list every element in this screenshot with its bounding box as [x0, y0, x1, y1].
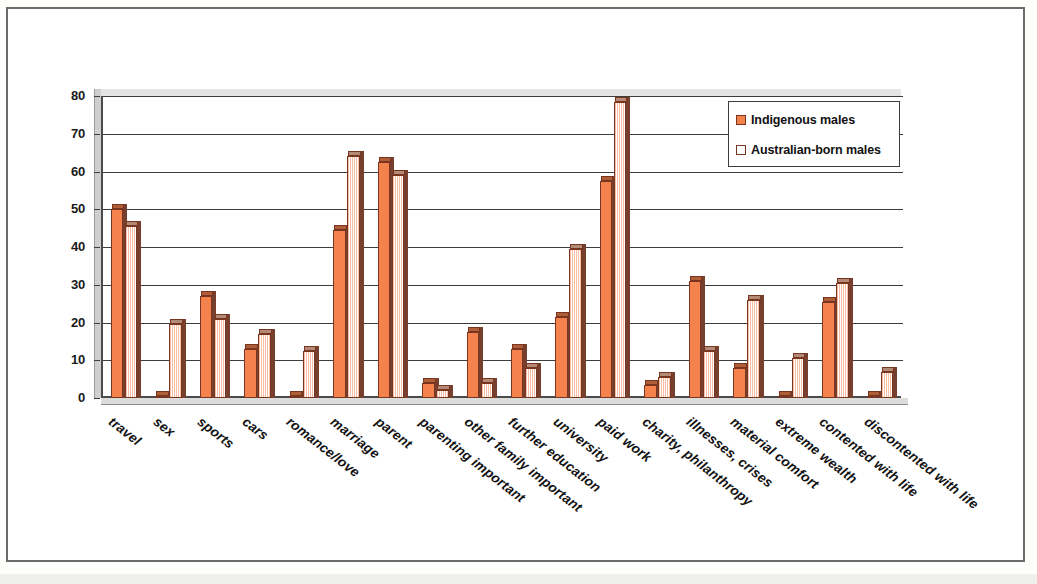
y-axis-tick-mark	[94, 398, 100, 399]
legend-item-australian-born-males: Australian-born males	[736, 143, 881, 157]
bar	[422, 383, 435, 398]
bar	[333, 230, 346, 398]
bar	[733, 368, 746, 398]
y-axis-tick-label: 0	[0, 390, 85, 405]
y-axis-tick-label: 10	[0, 352, 85, 367]
legend-swatch-icon	[736, 145, 746, 155]
y-axis-tick-label: 80	[0, 88, 85, 103]
bar	[111, 209, 124, 398]
x-axis-label: cars	[239, 414, 270, 443]
bar	[644, 385, 657, 398]
y-axis-tick-mark	[94, 247, 100, 248]
chart-back-wall-top	[94, 89, 901, 96]
x-axis-label: sports	[195, 414, 237, 452]
screenshot-page: 01020304050607080 travelsexsportscarsrom…	[0, 0, 1037, 584]
y-axis-tick-label: 20	[0, 315, 85, 330]
bar	[347, 156, 360, 398]
bar	[792, 358, 805, 398]
y-axis-tick-mark	[94, 209, 100, 210]
bar	[555, 317, 568, 398]
legend-item-indigenous-males: Indigenous males	[736, 113, 855, 127]
y-axis-tick-mark	[94, 134, 100, 135]
y-axis-tick-label: 30	[0, 277, 85, 292]
bar	[881, 372, 894, 398]
bar	[481, 383, 494, 398]
bar	[614, 102, 627, 398]
x-axis-label: travel	[106, 414, 144, 448]
bar	[258, 334, 271, 398]
bar	[125, 226, 138, 398]
y-axis-tick-label: 40	[0, 239, 85, 254]
bar	[511, 349, 524, 398]
bar	[689, 281, 702, 398]
bar	[392, 175, 405, 398]
legend-swatch-icon	[736, 115, 746, 125]
y-axis-tick-label: 70	[0, 126, 85, 141]
chart-legend: Indigenous males Australian-born males	[728, 101, 900, 167]
x-axis-label: sex	[150, 414, 177, 440]
bar	[169, 324, 182, 398]
y-axis-tick-label: 50	[0, 201, 85, 216]
y-axis-tick-mark	[94, 323, 100, 324]
bar	[200, 296, 213, 398]
bar	[436, 390, 449, 398]
y-axis-tick-mark	[94, 96, 100, 97]
bar	[303, 351, 316, 398]
bar	[214, 319, 227, 398]
bar	[600, 181, 613, 398]
bar	[703, 351, 716, 398]
bar	[658, 377, 671, 398]
x-axis-category-labels: travelsexsportscarsromance/lovemarriagep…	[101, 404, 981, 574]
bar	[836, 283, 849, 398]
bar-chart: 01020304050607080 travelsexsportscarsrom…	[0, 0, 1037, 584]
chart-back-wall-left	[94, 89, 101, 398]
bar	[467, 332, 480, 398]
bar	[569, 249, 582, 398]
bar	[747, 300, 760, 398]
legend-label: Australian-born males	[751, 143, 881, 157]
bar	[525, 368, 538, 398]
bar	[822, 302, 835, 398]
bar	[378, 162, 391, 398]
bar	[244, 349, 257, 398]
y-axis-tick-mark	[94, 172, 100, 173]
legend-label: Indigenous males	[751, 113, 855, 127]
y-axis-tick-label: 60	[0, 164, 85, 179]
y-axis-tick-mark	[94, 360, 100, 361]
y-axis-tick-mark	[94, 285, 100, 286]
